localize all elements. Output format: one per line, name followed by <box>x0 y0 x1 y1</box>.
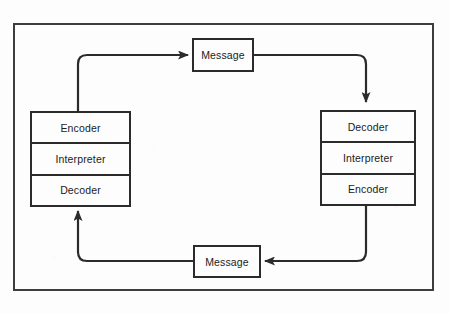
right-agent-row-interpreter-label: Interpreter <box>343 152 393 164</box>
diagram-page: Encoder Interpreter Decoder Decoder Inte… <box>0 0 449 313</box>
right-agent-row-encoder-label: Encoder <box>348 183 388 195</box>
connector-bottom-message-to-left <box>78 211 193 261</box>
message-box-top-label: Message <box>201 49 245 61</box>
left-agent-row-interpreter: Interpreter <box>32 144 129 175</box>
left-agent-stack: Encoder Interpreter Decoder <box>30 111 131 207</box>
left-agent-row-encoder: Encoder <box>32 113 129 144</box>
right-agent-row-interpreter: Interpreter <box>322 143 414 174</box>
connector-right-to-bottom-message <box>265 206 366 261</box>
message-box-top: Message <box>192 38 254 72</box>
right-agent-row-decoder: Decoder <box>322 112 414 143</box>
right-agent-row-encoder: Encoder <box>322 175 414 204</box>
left-agent-row-decoder: Decoder <box>32 176 129 205</box>
connector-left-to-top-message <box>78 55 188 111</box>
right-agent-row-decoder-label: Decoder <box>348 121 389 133</box>
message-box-bottom-label: Message <box>205 256 249 268</box>
left-agent-row-decoder-label: Decoder <box>60 184 101 196</box>
message-box-bottom: Message <box>193 245 261 278</box>
left-agent-row-interpreter-label: Interpreter <box>55 153 105 165</box>
connector-top-message-to-right <box>254 55 366 102</box>
right-agent-stack: Decoder Interpreter Encoder <box>320 110 416 206</box>
left-agent-row-encoder-label: Encoder <box>60 122 100 134</box>
